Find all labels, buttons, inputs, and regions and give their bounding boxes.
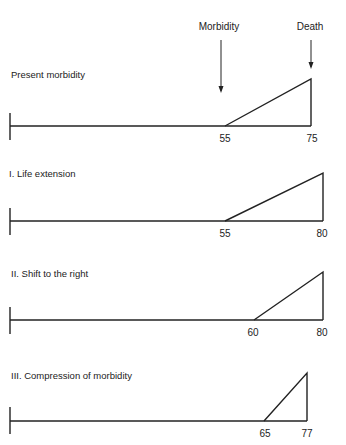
death-header-label: Death [297,21,324,32]
timeline-life-extension [10,173,323,235]
death-arrow [309,40,314,69]
onset-age-label: 60 [247,327,258,338]
morbidity-arrow [219,40,224,93]
timeline-present-morbidity [10,79,311,140]
death-age-label: 80 [316,228,327,239]
panel-title: Present morbidity [11,69,85,80]
panel-title: III. Compression of morbidity [11,370,132,381]
morbidity-header-label: Morbidity [199,21,240,32]
timeline-shift-right [10,272,323,334]
onset-age-label: 65 [259,428,270,439]
onset-age-label: 55 [219,228,230,239]
death-age-label: 80 [316,327,327,338]
panel-title: II. Shift to the right [11,268,88,279]
onset-age-label: 55 [219,133,230,144]
timeline-compression [10,373,307,434]
panel-title: I. Life extension [9,168,76,179]
death-age-label: 77 [301,428,312,439]
death-age-label: 75 [306,133,317,144]
